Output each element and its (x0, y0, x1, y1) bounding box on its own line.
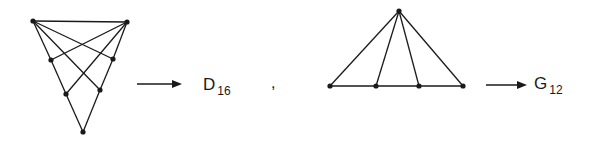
d16-vertex (110, 56, 115, 61)
d16-edge (33, 21, 51, 60)
d16-vertex (80, 129, 85, 134)
arrow-head-icon (517, 81, 527, 89)
d16-vertex (124, 19, 129, 24)
label-d16: D16 (203, 76, 231, 93)
right-graph-g12 (327, 8, 465, 88)
d16-edge (66, 22, 127, 94)
d16-edge (66, 94, 83, 132)
left-graph-d16 (30, 18, 129, 134)
d16-vertex (30, 18, 35, 23)
separator-comma: , (271, 74, 275, 92)
g12-vertex (396, 8, 401, 13)
d16-edge (51, 60, 66, 94)
g12-vertex (373, 83, 378, 88)
arrow-head-icon (172, 80, 182, 88)
label-d16-sub: 16 (217, 84, 230, 98)
g12-edge (376, 11, 399, 86)
label-g12-sub: 12 (549, 83, 562, 97)
g12-vertex (416, 83, 421, 88)
label-g12-main: G (534, 74, 547, 93)
d16-edge (33, 21, 100, 90)
d16-edge (100, 59, 113, 90)
g12-edge (330, 11, 399, 86)
d16-vertex (63, 91, 68, 96)
d16-edge (51, 22, 127, 60)
label-d16-main: D (203, 75, 215, 94)
g12-vertex (460, 83, 465, 88)
d16-edge (83, 90, 100, 132)
d16-vertex (97, 87, 102, 92)
g12-vertex (327, 83, 332, 88)
d16-vertex (48, 57, 53, 62)
label-g12: G12 (534, 75, 563, 92)
graph-diagram (0, 0, 590, 142)
d16-edge (33, 21, 127, 22)
